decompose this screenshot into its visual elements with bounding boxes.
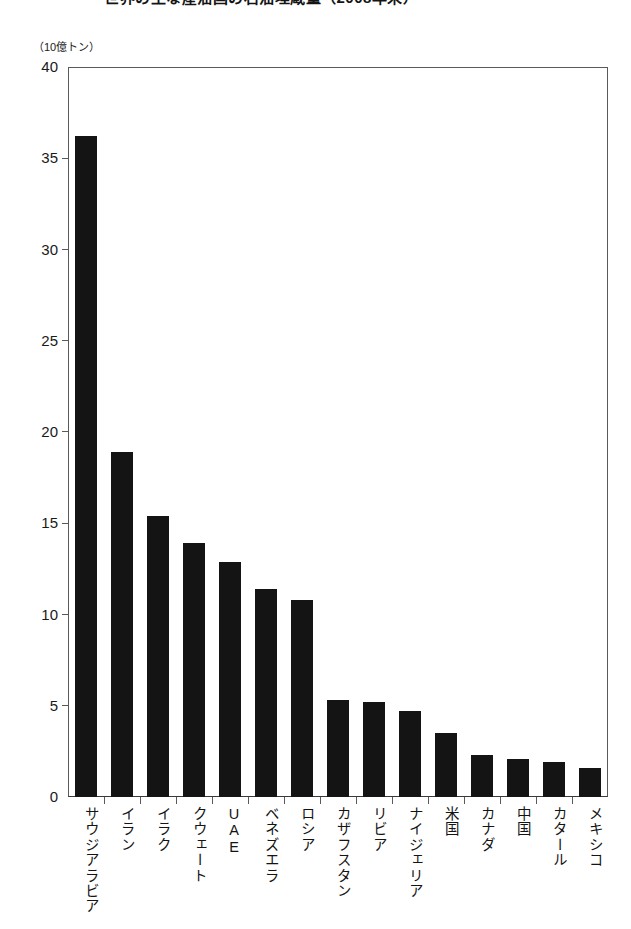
bar xyxy=(147,516,169,797)
y-axis-label: 30 xyxy=(2,242,58,257)
x-axis-label: メキシコ xyxy=(579,806,601,868)
x-axis-tick xyxy=(464,797,465,804)
y-axis-label: 20 xyxy=(2,424,58,439)
bar xyxy=(507,759,529,797)
bar-series xyxy=(68,67,608,797)
y-axis-label: 5 xyxy=(2,698,58,713)
y-axis-label: 0 xyxy=(2,789,58,804)
x-axis-label: リビア xyxy=(363,806,385,852)
bar xyxy=(471,755,493,797)
bar xyxy=(111,452,133,797)
bar xyxy=(435,733,457,797)
x-axis-tick xyxy=(392,797,393,804)
bar xyxy=(75,136,97,797)
x-axis-label: カタール xyxy=(543,806,565,868)
x-axis-tick xyxy=(320,797,321,804)
y-axis-label: 25 xyxy=(2,333,58,348)
x-axis-label: イラク xyxy=(147,806,169,852)
y-axis-label: 10 xyxy=(2,607,58,622)
bar xyxy=(399,711,421,797)
bar xyxy=(255,589,277,797)
bar xyxy=(183,543,205,797)
x-axis-tick xyxy=(176,797,177,804)
y-axis-label: 35 xyxy=(2,150,58,165)
bar xyxy=(543,762,565,797)
bar xyxy=(327,700,349,797)
bar xyxy=(219,562,241,797)
x-axis-tick xyxy=(536,797,537,804)
x-axis-tick xyxy=(248,797,249,804)
x-axis-tick xyxy=(284,797,285,804)
bar xyxy=(579,768,601,797)
x-axis-tick xyxy=(572,797,573,804)
x-axis-tick xyxy=(104,797,105,804)
x-axis-tick xyxy=(140,797,141,804)
bar xyxy=(363,702,385,797)
x-axis-label: 中国 xyxy=(507,806,529,837)
x-axis-label: サウジアラビア xyxy=(75,806,97,914)
x-axis-tick xyxy=(356,797,357,804)
x-axis-label: イラン xyxy=(111,806,133,852)
bar xyxy=(291,600,313,797)
x-axis-label: カナダ xyxy=(471,806,493,852)
x-axis-label: ベネズエラ xyxy=(255,806,277,883)
x-axis-label: 米国 xyxy=(435,806,457,837)
x-axis-label: UAE xyxy=(219,806,241,855)
bar-chart: 4035302520151050 サウジアラビアイランイラククウェートUAEベネ… xyxy=(0,0,631,929)
x-axis-label: カザフスタン xyxy=(327,806,349,898)
y-axis-label: 15 xyxy=(2,515,58,530)
x-axis-tick xyxy=(500,797,501,804)
x-axis-label: ナイジェリア xyxy=(399,806,421,898)
x-axis-label: ロシア xyxy=(291,806,313,852)
x-axis-tick xyxy=(428,797,429,804)
x-axis-tick xyxy=(212,797,213,804)
x-axis-label: クウェート xyxy=(183,806,205,883)
y-axis-label: 40 xyxy=(2,59,58,74)
